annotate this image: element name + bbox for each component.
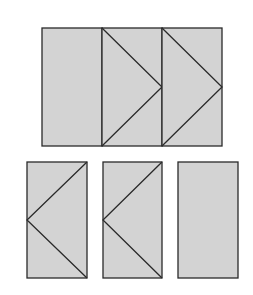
piece-rect xyxy=(103,162,162,278)
piece-rect xyxy=(162,28,222,146)
piece-bottom-plain xyxy=(178,162,238,278)
piece-rect xyxy=(42,28,102,146)
piece-bottom-arrow-left-2 xyxy=(103,162,162,278)
piece-rect xyxy=(178,162,238,278)
bottom-row xyxy=(27,162,238,278)
piece-top-arrow-right-1 xyxy=(102,28,162,146)
puzzle-diagram xyxy=(0,0,253,295)
piece-top-arrow-right-2 xyxy=(162,28,222,146)
piece-top-plain xyxy=(42,28,102,146)
piece-rect xyxy=(102,28,162,146)
piece-bottom-arrow-left-1 xyxy=(27,162,87,278)
top-row xyxy=(42,28,222,146)
piece-rect xyxy=(27,162,87,278)
